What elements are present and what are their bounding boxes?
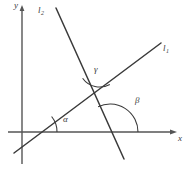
y-axis [20,5,25,164]
line-label-l2-subscript: 2 [41,10,44,16]
angle-arc-gamma [83,78,110,87]
x-axis [8,130,177,135]
angle-label-alpha: α [63,115,68,124]
line-label-l2: l2 [38,6,44,16]
x-axis-label: x [178,134,182,143]
line-label-l1: l1 [163,44,169,54]
line-l2 [56,8,124,159]
line-label-l1-subscript: 1 [166,48,169,54]
geometry-figure: y x l1 l2 α β γ [0,0,192,172]
geometry-canvas [0,0,192,172]
angle-arc-beta [98,104,138,132]
y-axis-label: y [14,1,18,10]
angle-label-gamma: γ [94,65,98,74]
y-axis-arrowhead [20,5,25,11]
angle-label-beta: β [135,96,139,105]
x-axis-arrowhead [170,130,177,135]
